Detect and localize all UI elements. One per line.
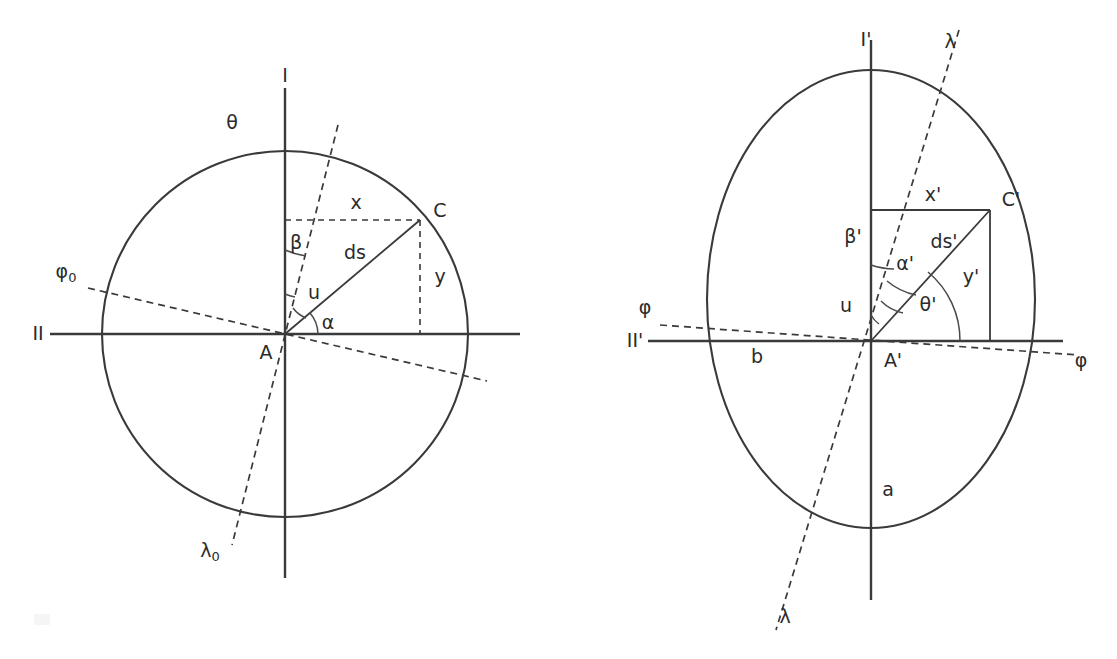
right-A-label: A' [884,349,902,371]
right-axis-II-label: II' [627,329,643,351]
right-theta-label: θ' [920,293,937,315]
left-A-label: A [260,341,273,363]
right-arc-alpha-inner [881,301,903,313]
left-u-label: u [308,281,320,303]
left-theta-label: θ [226,111,238,133]
left-ds-label: ds [344,241,366,263]
left-alpha-label: α [322,311,335,333]
figure-svg: I θ II φ0 λ0 β u α ds x y A C [0,0,1117,659]
right-beta-label: β' [844,225,861,247]
left-phi-label: φ0 [56,260,77,285]
left-C-label: C [433,199,446,221]
right-u-label: u [840,294,852,316]
left-arc-u [285,294,295,297]
left-arc-alpha [310,313,318,334]
right-lambda-top-label: λ [944,30,955,52]
left-arc-inner [293,308,306,318]
left-x-label: x [350,191,361,213]
right-lambda-bottom-label: λ [779,605,790,627]
right-a-label: a [882,478,894,500]
left-panel-group: I θ II φ0 λ0 β u α ds x y A C [32,64,520,579]
diagram-canvas: I θ II φ0 λ0 β u α ds x y A C [0,0,1117,659]
left-y-label: y [434,265,445,287]
right-panel-group: I' λ II' φ φ λ β' α' u θ' ds' x' y' b a … [627,28,1087,631]
right-C-label: C' [1002,188,1021,210]
right-phi-left-label: φ [639,296,652,318]
right-phi-right-label: φ [1075,349,1088,371]
right-x-label: x' [925,183,941,205]
left-axis-I-label: I [282,64,288,86]
right-alpha-label: α' [896,252,914,274]
right-arc-beta [871,265,894,269]
left-lambda-label: λ0 [200,539,220,564]
left-axis-II-label: II [32,322,43,344]
right-y-label: y' [963,265,979,287]
right-ds-label: ds' [930,230,957,252]
right-b-label: b [751,345,763,367]
right-arc-alpha [887,281,916,295]
left-beta-label: β [290,231,302,253]
page-artifact [34,614,50,625]
right-longitude-dashed-line [776,30,959,630]
right-axis-I-label: I' [861,28,872,50]
